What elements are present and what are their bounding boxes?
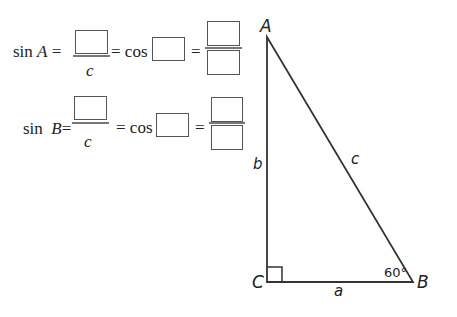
vertex-a-label: A	[260, 18, 272, 35]
side-a-label: a	[334, 284, 343, 299]
vertex-c-label: C	[252, 274, 264, 291]
vertex-b-label: B	[417, 274, 429, 291]
side-c-label: c	[351, 152, 359, 167]
angle-b-label: 60°	[384, 266, 407, 279]
side-b-label: b	[253, 157, 263, 172]
